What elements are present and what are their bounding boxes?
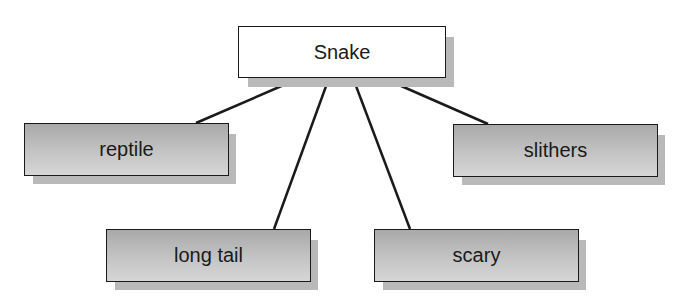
node-slithers: slithers xyxy=(453,124,658,177)
node-slithers-label: slithers xyxy=(524,139,587,162)
node-scary: scary xyxy=(374,229,579,282)
link-snake-scary xyxy=(353,78,410,229)
link-snake-long-tail xyxy=(274,78,329,229)
node-reptile-label: reptile xyxy=(99,138,153,161)
node-reptile: reptile xyxy=(24,123,229,176)
node-long-tail: long tail xyxy=(106,229,311,282)
root-node-snake: Snake xyxy=(238,26,446,78)
root-node-label: Snake xyxy=(314,41,371,64)
node-scary-label: scary xyxy=(453,244,501,267)
node-long-tail-label: long tail xyxy=(174,244,243,267)
